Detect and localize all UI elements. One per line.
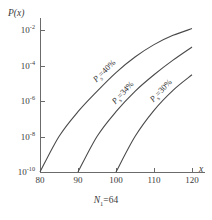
x-tick — [192, 168, 193, 172]
x-axis-line — [40, 172, 205, 173]
y-tick-label: 10-10 — [18, 168, 35, 177]
curve-line — [78, 47, 192, 172]
y-tick-label: 10-4 — [21, 61, 35, 70]
plot-area: 10-210-410-610-810-10 8090100110120 Ps=4… — [40, 30, 192, 172]
x-tick-label: 80 — [36, 176, 45, 185]
y-axis-title-text: P(x) — [8, 8, 24, 18]
y-tick — [41, 172, 45, 173]
x-tick-label: 120 — [185, 176, 199, 185]
x-tick-label: 90 — [74, 176, 83, 185]
figure-caption: N1=64 — [0, 195, 212, 205]
figure-container: P(x) 10-210-410-610-810-10 8090100110120… — [0, 0, 212, 220]
y-tick-label: 10-8 — [21, 132, 35, 141]
caption-value: =64 — [103, 195, 118, 205]
x-axis-title: x — [199, 164, 203, 174]
y-axis-title: P(x) — [8, 8, 24, 18]
x-tick-label: 110 — [147, 176, 160, 185]
y-tick-label: 10-6 — [21, 97, 35, 106]
y-tick-label: 10-2 — [21, 26, 35, 35]
x-axis-title-text: x — [199, 164, 203, 174]
x-tick-label: 100 — [109, 176, 123, 185]
